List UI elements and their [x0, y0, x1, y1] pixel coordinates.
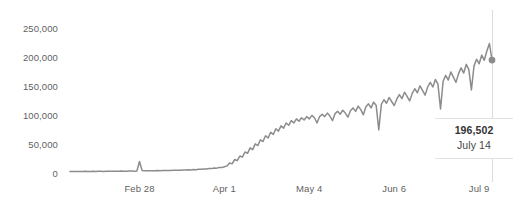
y-axis-tick-label: 100,000	[0, 111, 58, 121]
endpoint-marker-dot[interactable]	[489, 57, 496, 64]
endpoint-value-label: 196,502	[444, 124, 504, 137]
x-axis-tick-label: Apr 1	[194, 184, 254, 194]
y-axis-tick-label: 250,000	[0, 24, 58, 34]
x-axis-tick-label: Jun 6	[364, 184, 424, 194]
series-line-daily-value	[70, 44, 492, 172]
y-axis-tick-label: 50,000	[0, 140, 58, 150]
x-axis-tick-label: Feb 28	[109, 184, 169, 194]
x-axis-tick-label: Jul 9	[449, 184, 509, 194]
line-chart-figure: 050,000100,000150,000200,000250,000 Feb …	[0, 0, 517, 205]
y-axis-tick-label: 150,000	[0, 82, 58, 92]
chart-plot-area	[0, 0, 517, 205]
y-axis-tick-label: 0	[0, 169, 58, 179]
endpoint-callout: 196,502 July 14	[435, 118, 513, 159]
x-axis-tick-label: May 4	[279, 184, 339, 194]
endpoint-date-label: July 14	[444, 139, 504, 152]
y-axis-tick-label: 200,000	[0, 53, 58, 63]
